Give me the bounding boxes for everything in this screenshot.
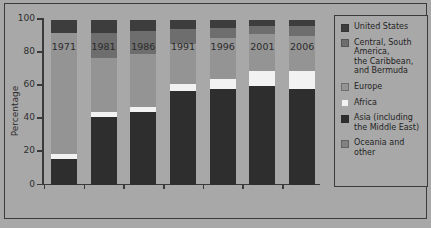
bar-segment (170, 84, 196, 91)
y-axis-tick-label: 20 (24, 146, 35, 155)
x-axis-tick-label: 1971 (52, 42, 76, 52)
legend-item: Oceania and other (341, 138, 422, 157)
bar-segment (91, 117, 117, 185)
legend-item: Europe (341, 82, 422, 92)
legend-item-label: United States (354, 22, 408, 32)
legend-swatch-icon (341, 140, 349, 148)
bar-segment (289, 20, 315, 27)
bar-segment (51, 20, 77, 33)
x-axis-tick-label: 1981 (91, 42, 115, 52)
y-axis-title: Percentage (10, 86, 20, 137)
plot-area: 020406080100 197119811986199119962001200… (42, 18, 320, 185)
x-axis-tick-label: 2001 (250, 42, 274, 52)
bar-segment (51, 159, 77, 185)
bar-segment (91, 58, 117, 113)
bar-segment (130, 54, 156, 107)
legend-swatch-icon (341, 115, 349, 123)
x-axis-tick (282, 184, 284, 189)
legend-item-label: Oceania and other (354, 138, 404, 157)
legend-item: Central, South America, the Caribbean, a… (341, 38, 422, 76)
x-axis-tick-label: 1991 (171, 42, 195, 52)
legend-item: Africa (341, 98, 422, 108)
bar-segment (130, 112, 156, 185)
y-axis-tick (37, 150, 42, 152)
y-axis-tick (37, 84, 42, 86)
y-axis-tick (37, 117, 42, 119)
x-axis-tick-label: 2006 (290, 42, 314, 52)
legend-item-label: Africa (354, 98, 377, 108)
legend-swatch-icon (341, 83, 349, 91)
x-axis-tick (203, 184, 205, 189)
x-axis-tick (163, 184, 165, 189)
x-axis-tick-label: 1996 (211, 42, 235, 52)
legend-item-label: Central, South America, the Caribbean, a… (354, 38, 413, 76)
bar-segment (170, 20, 196, 30)
y-axis-tick-label: 60 (24, 80, 35, 89)
y-axis-tick (37, 18, 42, 20)
y-axis-tick (37, 184, 42, 186)
y-axis-tick (37, 51, 42, 53)
legend-swatch-icon (341, 24, 349, 32)
x-axis-tick-label: 1986 (131, 42, 155, 52)
legend-item: Asia (including the Middle East) (341, 113, 422, 132)
bar-segment (249, 26, 275, 34)
bar-segment (249, 86, 275, 185)
chart-screenshot: Percentage 020406080100 1971198119861991… (0, 0, 431, 228)
bar-segment (170, 91, 196, 185)
bar-segment (249, 71, 275, 86)
legend-item-label: Asia (including the Middle East) (354, 113, 419, 132)
chart-frame: Percentage 020406080100 1971198119861991… (4, 3, 427, 219)
bar-segment (249, 34, 275, 70)
bar-segment (91, 20, 117, 33)
y-axis-tick-label: 100 (18, 14, 35, 23)
bar-segment (130, 20, 156, 32)
bar-segment (210, 20, 236, 28)
bar-segment (210, 28, 236, 38)
bar-segment (289, 89, 315, 185)
legend-box: United StatesCentral, South America, the… (334, 15, 428, 187)
legend-swatch-icon (341, 39, 349, 47)
bar-segment (130, 107, 156, 112)
x-axis-tick (44, 184, 46, 189)
bar-segment (210, 79, 236, 89)
y-axis-tick-label: 0 (29, 179, 35, 188)
x-axis-tick (123, 184, 125, 189)
bar-segment (289, 26, 315, 36)
y-axis-tick-label: 40 (24, 113, 35, 122)
legend-item: United States (341, 22, 422, 32)
x-axis-tick (242, 184, 244, 189)
bar-segment (249, 20, 275, 27)
y-axis-line (42, 18, 44, 185)
bar-segment (210, 89, 236, 185)
bar-segment (51, 154, 77, 159)
bar-segment (91, 112, 117, 117)
legend-swatch-icon (341, 99, 349, 107)
legend-item-label: Europe (354, 82, 382, 92)
y-axis-tick-label: 80 (24, 47, 35, 56)
bar-segment (289, 71, 315, 89)
x-axis-tick (84, 184, 86, 189)
